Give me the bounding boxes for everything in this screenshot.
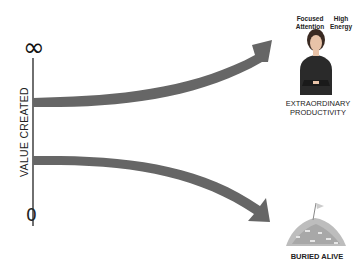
axis-title: VALUE CREATED xyxy=(18,82,30,182)
diagram-canvas xyxy=(0,0,356,278)
falling-arrow xyxy=(33,156,270,222)
focused-attention-note: Focused Attention xyxy=(291,15,329,30)
extraordinary-productivity-caption: EXTRAORDINARY PRODUCTIVITY xyxy=(279,99,356,117)
high-energy-note: High Energy xyxy=(325,15,356,30)
caption-line-1: EXTRAORDINARY xyxy=(279,99,356,108)
paper-pile-image xyxy=(286,203,346,246)
caption-line-2: PRODUCTIVITY xyxy=(279,108,356,117)
axis-top-label: ∞ xyxy=(23,34,45,60)
rising-arrow xyxy=(33,40,272,107)
axis-bottom-label: 0 xyxy=(26,206,37,224)
buried-alive-caption: BURIED ALIVE xyxy=(282,252,352,261)
businesswoman-image xyxy=(300,29,332,95)
